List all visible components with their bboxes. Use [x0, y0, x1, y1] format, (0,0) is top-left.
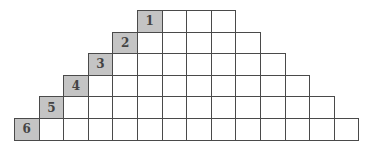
grid-cell — [260, 118, 286, 141]
grid-cell — [112, 118, 138, 141]
grid-cell — [162, 118, 188, 141]
grid-cell — [211, 10, 237, 33]
grid-cell — [186, 53, 212, 76]
grid-cell — [211, 118, 237, 141]
grid-cell — [235, 118, 261, 141]
grid-cell — [88, 118, 114, 141]
grid-cell — [260, 75, 286, 98]
grid-cell — [309, 118, 335, 141]
grid-cell — [211, 53, 237, 76]
row-label-cell: 6 — [14, 118, 40, 141]
grid-cell — [88, 75, 114, 98]
grid-cell — [137, 32, 163, 55]
grid-cell — [186, 75, 212, 98]
grid-cell — [162, 53, 188, 76]
grid-cell — [211, 32, 237, 55]
row-label-cell: 5 — [39, 96, 65, 119]
grid-cell — [63, 118, 89, 141]
grid-cell — [162, 96, 188, 119]
grid-cell — [137, 118, 163, 141]
grid-cell — [260, 96, 286, 119]
row-label-cell: 1 — [137, 10, 163, 33]
grid-cell — [137, 53, 163, 76]
staircase-grid: 123456 — [0, 0, 368, 147]
grid-cell — [285, 75, 311, 98]
grid-cell — [186, 32, 212, 55]
grid-cell — [137, 75, 163, 98]
grid-cell — [260, 53, 286, 76]
grid-cell — [334, 118, 360, 141]
grid-cell — [285, 118, 311, 141]
grid-cell — [186, 118, 212, 141]
grid-cell — [211, 96, 237, 119]
grid-cell — [162, 32, 188, 55]
grid-cell — [162, 10, 188, 33]
grid-cell — [112, 75, 138, 98]
grid-cell — [162, 75, 188, 98]
grid-cell — [186, 96, 212, 119]
grid-cell — [88, 96, 114, 119]
grid-cell — [211, 75, 237, 98]
grid-cell — [235, 53, 261, 76]
grid-cell — [285, 96, 311, 119]
grid-cell — [235, 75, 261, 98]
grid-cell — [112, 53, 138, 76]
grid-cell — [235, 96, 261, 119]
grid-cell — [235, 32, 261, 55]
grid-cell — [39, 118, 65, 141]
grid-cell — [137, 96, 163, 119]
grid-cell — [112, 96, 138, 119]
grid-cell — [186, 10, 212, 33]
grid-cell — [309, 96, 335, 119]
grid-cell — [63, 96, 89, 119]
row-label-cell: 2 — [112, 32, 138, 55]
row-label-cell: 3 — [88, 53, 114, 76]
row-label-cell: 4 — [63, 75, 89, 98]
